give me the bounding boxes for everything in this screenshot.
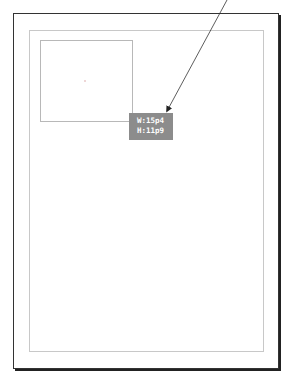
size-tooltip: W:15p4 H:11p9	[129, 113, 173, 140]
tooltip-height: H:11p9	[137, 126, 173, 136]
pointer-arrow-icon	[0, 0, 286, 383]
tooltip-width: W:15p4	[137, 116, 173, 126]
